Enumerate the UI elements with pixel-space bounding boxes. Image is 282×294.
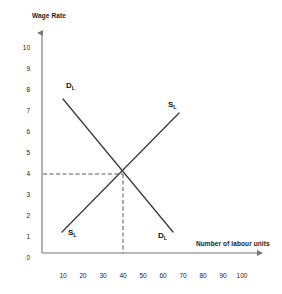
supply-label-subscript: L: [73, 232, 76, 238]
x-tick-label: 100: [234, 272, 250, 279]
x-tick-label: 30: [95, 272, 111, 279]
y-tick-label: 9: [16, 65, 30, 72]
supply-curve-label-bottom: SL: [68, 228, 77, 237]
supply-curve: [62, 113, 179, 232]
y-tick-label: 3: [16, 191, 30, 198]
x-tick-label: 80: [195, 272, 211, 279]
x-tick-label: 90: [215, 272, 231, 279]
chart-plot-area: [0, 0, 282, 294]
supply-curve-label-top: SL: [168, 100, 177, 109]
x-tick-label: 40: [115, 272, 131, 279]
supply-label-subscript: L: [173, 104, 176, 110]
demand-label-letter: D: [158, 231, 164, 240]
x-tick-label: 10: [55, 272, 71, 279]
y-tick-label: 8: [16, 86, 30, 93]
y-tick-label: 0: [16, 254, 30, 261]
demand-curve-label-top: DL: [66, 81, 75, 90]
demand-label-letter: D: [66, 81, 72, 90]
demand-label-subscript: L: [164, 235, 167, 241]
y-tick-label: 7: [16, 107, 30, 114]
y-axis-title: Wage Rate: [32, 12, 66, 19]
y-tick-label: 10: [16, 44, 30, 51]
y-tick-label: 6: [16, 128, 30, 135]
y-tick-label: 5: [16, 149, 30, 156]
y-tick-label: 4: [16, 170, 30, 177]
wage-rate-labour-chart: Wage Rate Number of labour units 10 9 8 …: [0, 0, 282, 294]
x-tick-label: 20: [75, 272, 91, 279]
x-axis-title: Number of labour units: [196, 240, 270, 247]
x-tick-label: 50: [135, 272, 151, 279]
demand-curve-label-bottom: DL: [158, 231, 167, 240]
demand-label-subscript: L: [72, 85, 75, 91]
x-tick-label: 70: [175, 272, 191, 279]
x-tick-label: 60: [155, 272, 171, 279]
y-tick-label: 1: [16, 233, 30, 240]
y-tick-label: 2: [16, 212, 30, 219]
demand-curve: [63, 99, 173, 232]
